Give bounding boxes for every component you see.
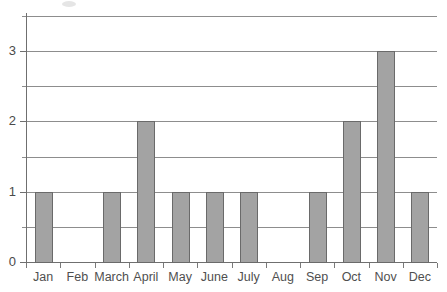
x-axis-label-nov: Nov	[375, 270, 398, 284]
bar-dec: Dec: 1	[412, 193, 429, 263]
bar-april: April: 2	[138, 122, 155, 263]
x-axis-label-dec: Dec	[409, 270, 431, 284]
x-axis-label-sep: Sep	[306, 270, 328, 284]
chart-plot-area: 0123Jan: 1March: 1April: 2May: 1June: 1J…	[0, 0, 447, 292]
bar-sep: Sep: 1	[310, 193, 327, 263]
bar-oct: Oct: 2	[344, 122, 361, 263]
x-axis-label-july: July	[238, 270, 261, 284]
x-axis-label-feb: Feb	[67, 270, 89, 284]
bar-chart: 0123Jan: 1March: 1April: 2May: 1June: 1J…	[0, 0, 447, 292]
y-axis-tick-label: 3	[9, 43, 16, 58]
x-axis-label-oct: Oct	[342, 270, 362, 284]
bar-jan: Jan: 1	[36, 193, 53, 263]
bar-july: July: 1	[241, 193, 258, 263]
x-axis-label-jan: Jan	[33, 270, 53, 284]
bar-june: June: 1	[207, 193, 224, 263]
y-axis-tick-label: 0	[9, 254, 16, 269]
y-axis-tick-label: 1	[9, 184, 16, 199]
bar-march: March: 1	[104, 193, 121, 263]
x-axis-label-march: March	[94, 270, 129, 284]
x-axis-label-april: April	[133, 270, 158, 284]
bar-may: May: 1	[173, 193, 190, 263]
x-axis-label-aug: Aug	[272, 270, 294, 284]
x-axis-label-june: June	[201, 270, 228, 284]
x-axis-label-may: May	[168, 270, 192, 284]
bar-nov: Nov: 3	[378, 52, 395, 263]
y-axis-tick-label: 2	[9, 113, 16, 128]
